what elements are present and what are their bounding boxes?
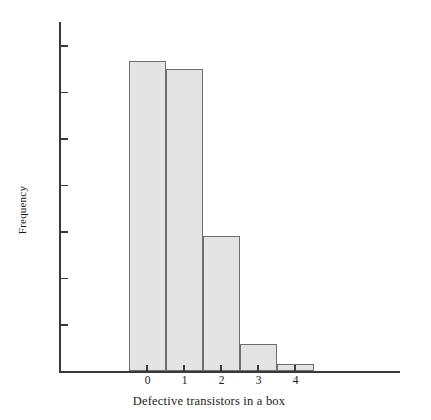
- x-tick-text-3: 3: [256, 374, 262, 386]
- y-tick-mark-36: [61, 92, 68, 93]
- x-tick-mark-2: [220, 365, 221, 372]
- x-axis-line: [59, 371, 400, 373]
- x-tick-label-2: 2: [210, 374, 234, 386]
- x-tick-label-1: 1: [173, 374, 197, 386]
- bar-category-1: [166, 69, 203, 371]
- y-tick-mark-42: [61, 45, 68, 46]
- y-tick-mark-18: [61, 231, 68, 232]
- y-tick-mark-24: [61, 185, 68, 186]
- x-tick-label-3: 3: [247, 374, 271, 386]
- x-tick-mark-0: [146, 365, 147, 372]
- x-tick-label-0: 0: [136, 374, 160, 386]
- x-axis-label: Defective transistors in a box: [59, 394, 359, 409]
- x-tick-mark-1: [183, 365, 184, 372]
- y-axis-line: [59, 22, 61, 373]
- x-tick-text-2: 2: [219, 374, 225, 386]
- y-tick-mark-30: [61, 138, 68, 139]
- x-tick-label-4: 4: [284, 374, 308, 386]
- plot-area: 42 36 30 24 18 12 6 0 1 2 3 4: [0, 0, 431, 420]
- bar-category-2: [203, 236, 240, 372]
- histogram-figure: 42 36 30 24 18 12 6 0 1 2 3 4 Frequency …: [0, 0, 431, 420]
- x-tick-mark-3: [257, 365, 258, 372]
- x-tick-mark-4: [294, 365, 295, 372]
- x-tick-text-1: 1: [182, 374, 188, 386]
- y-tick-mark-12: [61, 278, 68, 279]
- x-tick-text-4: 4: [293, 374, 299, 386]
- bar-category-0: [129, 61, 166, 371]
- y-tick-mark-6: [61, 324, 68, 325]
- y-axis-label: Frequency: [14, 0, 30, 420]
- x-tick-text-0: 0: [145, 374, 151, 386]
